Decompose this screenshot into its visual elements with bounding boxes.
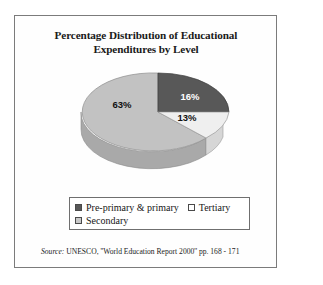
- legend-label-secondary: Secondary: [86, 215, 128, 226]
- legend-label-pre-primary-primary: Pre-primary & primary: [86, 202, 179, 213]
- legend-row-1: Pre-primary & primary Tertiary: [75, 201, 244, 214]
- source-citation: UNESCO, ''World Education Report 2000'' …: [66, 247, 239, 256]
- figure-panel: Percentage Distribution of Educational E…: [0, 0, 323, 285]
- legend-item-secondary[interactable]: Secondary: [75, 215, 128, 226]
- chart-title: Percentage Distribution of Educational E…: [33, 28, 259, 56]
- legend-label-tertiary: Tertiary: [199, 202, 231, 213]
- pie-label-tertiary: 13%: [177, 112, 197, 123]
- legend-row-2: Secondary: [75, 214, 244, 227]
- legend-swatch-secondary: [75, 217, 82, 224]
- legend-swatch-pre-primary-primary: [75, 204, 82, 211]
- pie-label-secondary: 63%: [112, 99, 132, 110]
- chart-title-line-2: Expenditures by Level: [33, 42, 259, 56]
- legend-item-pre-primary-primary[interactable]: Pre-primary & primary: [75, 202, 179, 213]
- source-prefix: Source:: [41, 247, 64, 256]
- legend-swatch-tertiary: [188, 204, 195, 211]
- source-note: Source: UNESCO, ''World Education Report…: [41, 247, 239, 256]
- legend-item-tertiary[interactable]: Tertiary: [188, 202, 231, 213]
- chart-title-line-1: Percentage Distribution of Educational: [55, 29, 238, 41]
- pie-chart-svg: 16% 13% 63%: [75, 64, 240, 179]
- pie-label-pre-primary-primary: 16%: [180, 91, 200, 102]
- pie-chart: 16% 13% 63%: [75, 64, 240, 179]
- chart-border-frame: Percentage Distribution of Educational E…: [14, 15, 277, 268]
- chart-legend: Pre-primary & primary Tertiary Secondary: [69, 197, 250, 230]
